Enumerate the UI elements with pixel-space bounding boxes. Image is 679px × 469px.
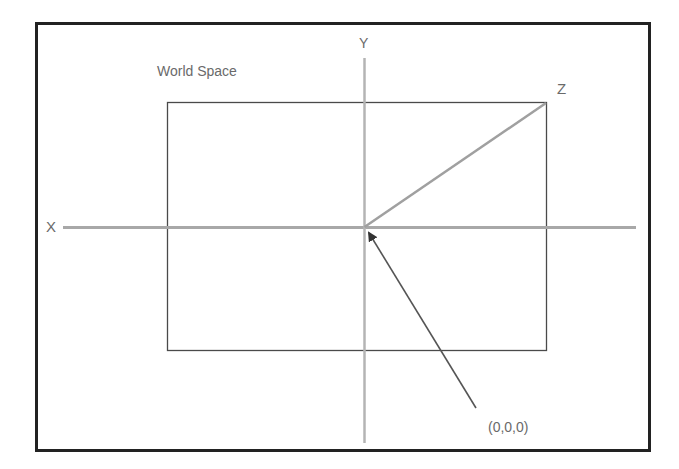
x-axis-label: X: [46, 218, 56, 235]
origin-arrow: [369, 233, 476, 408]
origin-label: (0,0,0): [488, 419, 528, 435]
z-axis: [365, 103, 547, 227]
z-axis-label: Z: [557, 80, 566, 97]
y-axis-label: Y: [359, 35, 369, 51]
world-space-diagram: World Space X Y Z (0,0,0): [0, 0, 679, 469]
diagram-title: World Space: [157, 63, 237, 79]
